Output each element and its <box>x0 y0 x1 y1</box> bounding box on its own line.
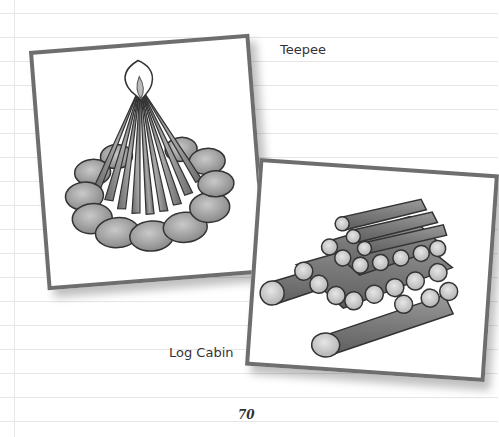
teepee-card <box>29 34 268 291</box>
log-cabin-card <box>245 158 499 382</box>
teepee-fire-illustration <box>33 38 264 286</box>
teepee-caption: Teepee <box>280 42 326 57</box>
log-cabin-caption: Log Cabin <box>169 345 234 360</box>
margin-line <box>14 0 15 437</box>
log-cabin-fire-illustration <box>249 162 494 378</box>
page-number: 70 <box>238 408 255 422</box>
